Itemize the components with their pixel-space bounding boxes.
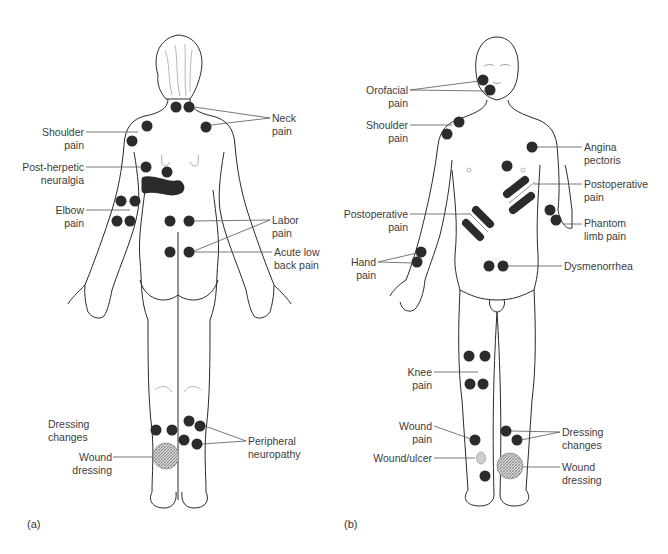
incision-bar	[513, 196, 531, 210]
suture-lines	[469, 182, 535, 232]
knee-marker	[478, 379, 489, 390]
neck-marker	[184, 102, 195, 113]
wound-pain-marker	[470, 435, 481, 446]
panel-caption-a: (a)	[27, 518, 40, 530]
orofacial-marker	[485, 85, 496, 96]
neuropathy-marker	[179, 435, 190, 446]
label-knee-pain: Knee pain	[380, 366, 432, 391]
label-wound-dressing: Wound dressing	[40, 451, 112, 476]
angina-marker	[527, 142, 538, 153]
shoulder-marker	[142, 121, 153, 132]
dressing-change-marker	[501, 426, 512, 437]
label-postoperative-pain-right: Postoperative pain	[584, 178, 648, 203]
label-dressing-changes: Dressing changes	[48, 418, 89, 443]
label-hand-pain: Hand pain	[340, 256, 376, 281]
label-dressing-changes-b: Dressing changes	[562, 426, 603, 451]
label-shoulder-pain: Shoulder pain	[20, 126, 84, 151]
post-herpetic-marker	[162, 167, 173, 178]
neuropathy-marker	[184, 416, 195, 427]
elbow-marker	[116, 196, 127, 207]
posterior-leader-lines	[86, 107, 272, 457]
label-dysmenorrhea: Dysmenorrhea	[564, 260, 633, 273]
label-wound-ulcer: Wound/ulcer	[360, 452, 432, 465]
neuropathy-marker	[195, 421, 206, 432]
label-shoulder-pain-b: Shoulder pain	[340, 119, 408, 144]
dysmenorrhea-marker	[498, 261, 509, 272]
dysmenorrhea-marker	[484, 261, 495, 272]
knee-marker	[480, 351, 491, 362]
label-neck-pain: Neck pain	[272, 112, 296, 137]
label-acute-low-back-pain: Acute low back pain	[274, 246, 320, 271]
shoulder-marker	[454, 117, 465, 128]
elbow-marker	[130, 196, 141, 207]
neuropathy-marker	[192, 439, 203, 450]
labor-marker	[184, 216, 195, 227]
wound-pain-marker	[480, 471, 491, 482]
neck-marker	[201, 122, 212, 133]
wound-dressing-area	[497, 453, 523, 479]
label-labor-pain: Labor pain	[272, 214, 299, 239]
label-elbow-pain: Elbow pain	[20, 204, 84, 229]
dressing-change-marker	[512, 435, 523, 446]
post-herpetic-marker	[141, 162, 152, 173]
chest-marker	[502, 161, 513, 172]
elbow-marker	[112, 216, 123, 227]
wound-ulcer-area	[477, 452, 486, 464]
panel-caption-b: (b)	[344, 518, 357, 530]
dressing-change-marker	[167, 425, 178, 436]
orofacial-marker	[478, 75, 489, 86]
low-back-marker	[184, 247, 195, 258]
label-peripheral-neuropathy: Peripheral neuropathy	[248, 435, 301, 460]
wound-dressing-area	[153, 443, 179, 469]
labor-marker	[165, 216, 176, 227]
knee-marker	[464, 351, 475, 362]
label-orofacial-pain: Orofacial pain	[340, 84, 408, 109]
label-angina-pectoris: Angina pectoris	[584, 141, 621, 166]
neck-marker	[171, 102, 182, 113]
label-postoperative-pain-left: Postoperative pain	[330, 208, 408, 233]
label-post-herpetic-neuralgia: Post-herpetic neuralgia	[10, 161, 84, 186]
shoulder-marker	[442, 129, 453, 140]
dressing-change-marker	[151, 425, 162, 436]
anterior-pain-markers	[412, 75, 562, 482]
posterior-pain-markers	[112, 102, 212, 450]
label-phantom-limb-pain: Phantom limb pain	[584, 217, 626, 242]
shoulder-marker	[127, 136, 138, 147]
hand-marker	[412, 257, 423, 268]
elbow-marker	[125, 216, 136, 227]
phantom-limb-marker	[545, 205, 556, 216]
knee-marker	[465, 379, 476, 390]
herpes-zoster-band	[145, 180, 181, 192]
low-back-marker	[165, 247, 176, 258]
hand-marker	[416, 247, 427, 258]
phantom-limb-marker	[551, 215, 562, 226]
label-wound-dressing-b: Wound dressing	[562, 461, 602, 486]
incision-bar	[466, 223, 480, 237]
label-wound-pain: Wound pain	[380, 420, 432, 445]
